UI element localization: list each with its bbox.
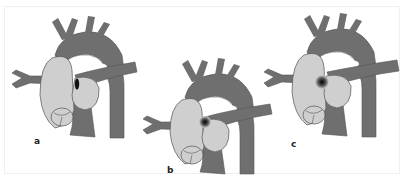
- figure-canvas: a b: [0, 0, 410, 181]
- panel-label-c: c: [291, 139, 296, 149]
- panel-a: a: [0, 0, 140, 181]
- heart-diagram-a: [0, 0, 140, 181]
- panel-b: b: [135, 12, 275, 181]
- panel-label-a: a: [34, 136, 40, 146]
- panel-label-b: b: [167, 165, 173, 175]
- heart-diagram-b: [135, 12, 275, 181]
- panel-c: c: [262, 0, 402, 181]
- heart-diagram-c: [262, 0, 402, 181]
